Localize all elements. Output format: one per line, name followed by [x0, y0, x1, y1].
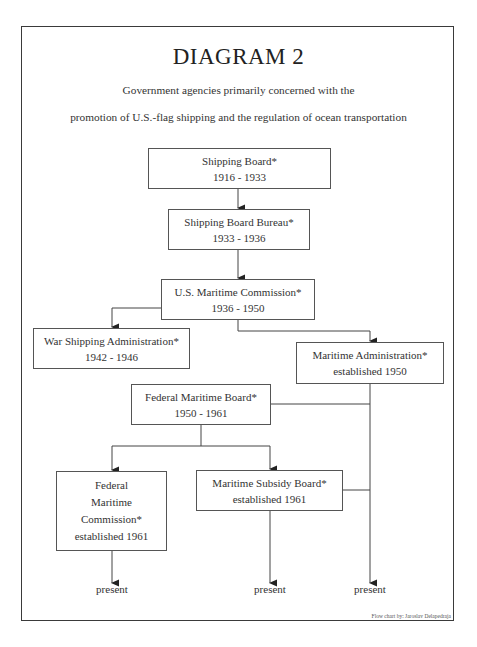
node-name: Shipping Board*: [202, 153, 277, 169]
node-name: U.S. Maritime Commission*: [174, 284, 301, 300]
node-name: Maritime Administration*: [312, 347, 427, 363]
node-name: Federal Maritime Board*: [145, 389, 257, 405]
node-federal-maritime-commission: Federal Maritime Commission* established…: [56, 471, 167, 551]
node-dates: 1950 - 1961: [174, 405, 227, 421]
terminal-present-fmc: present: [82, 583, 142, 595]
node-name: Maritime Subsidy Board*: [212, 475, 326, 491]
node-dates: 1933 - 1936: [212, 230, 265, 246]
node-name: War Shipping Administration*: [44, 333, 179, 349]
node-federal-maritime-board: Federal Maritime Board* 1950 - 1961: [131, 384, 271, 425]
node-name: Shipping Board Bureau*: [184, 214, 293, 230]
node-war-shipping-administration: War Shipping Administration* 1942 - 1946: [33, 328, 190, 369]
node-maritime-administration: Maritime Administration* established 195…: [296, 342, 444, 384]
terminal-present-msb: present: [240, 583, 300, 595]
node-name-line-3: Commission*: [81, 511, 142, 528]
terminal-present-marad: present: [340, 583, 400, 595]
node-dates: established 1961: [233, 491, 307, 507]
node-dates: established 1961: [75, 528, 149, 545]
node-name-line-2: Maritime: [91, 494, 132, 511]
node-dates: 1916 - 1933: [213, 169, 266, 185]
node-dates: 1936 - 1950: [211, 300, 264, 316]
node-maritime-subsidy-board: Maritime Subsidy Board* established 1961: [196, 470, 343, 511]
node-shipping-board: Shipping Board* 1916 - 1933: [148, 148, 331, 189]
node-us-maritime-commission: U.S. Maritime Commission* 1936 - 1950: [161, 279, 315, 320]
node-shipping-board-bureau: Shipping Board Bureau* 1933 - 1936: [168, 209, 310, 250]
node-dates: established 1950: [333, 363, 407, 379]
node-dates: 1942 - 1946: [85, 349, 138, 365]
node-name-line-1: Federal: [95, 477, 128, 494]
credit-text: Flow chart by: Jaroslav Delapedraja: [372, 613, 451, 619]
